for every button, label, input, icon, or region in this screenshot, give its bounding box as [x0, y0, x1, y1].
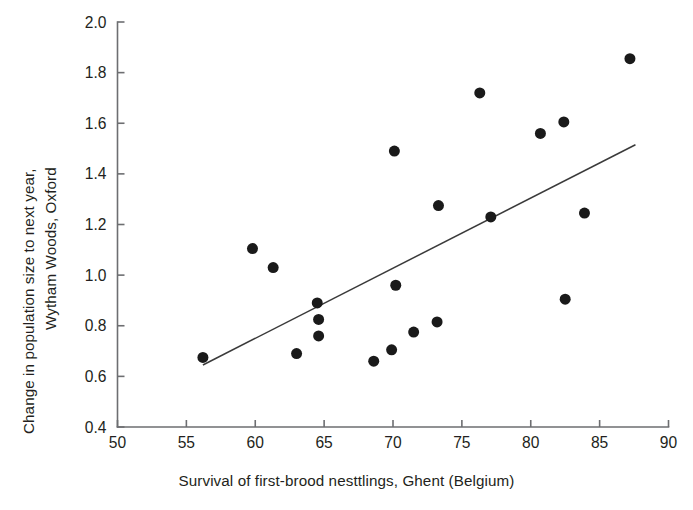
y-tick-label: 1.2: [85, 216, 107, 233]
x-tick-label: 50: [109, 434, 127, 451]
data-point: [432, 316, 443, 327]
data-point: [408, 327, 419, 338]
y-axis-ticks: [118, 22, 125, 427]
data-point: [368, 356, 379, 367]
y-tick-label: 1.0: [85, 267, 107, 284]
data-point: [558, 116, 569, 127]
x-tick-label: 60: [247, 434, 265, 451]
x-tick-label: 70: [384, 434, 402, 451]
y-tick-label: 0.4: [85, 419, 107, 436]
plot-area: 505560657075808590 0.40.60.81.01.21.41.6…: [0, 0, 693, 470]
data-point: [474, 87, 485, 98]
data-point: [313, 330, 324, 341]
y-tick-label: 2.0: [85, 14, 107, 31]
x-tick-label: 80: [522, 434, 540, 451]
plot-svg: 505560657075808590 0.40.60.81.01.21.41.6…: [0, 0, 693, 470]
y-tick-label: 1.4: [85, 165, 107, 182]
x-tick-label: 85: [591, 434, 609, 451]
scatter-plot-figure: Change in population size to next year, …: [0, 0, 693, 510]
x-axis-ticks: [118, 420, 669, 427]
data-point: [312, 297, 323, 308]
data-point: [624, 53, 635, 64]
x-tick-label: 65: [315, 434, 333, 451]
y-tick-label: 0.6: [85, 368, 107, 385]
data-point: [433, 200, 444, 211]
data-point: [535, 128, 546, 139]
data-point: [389, 146, 400, 157]
data-point: [390, 280, 401, 291]
data-point: [560, 294, 571, 305]
data-point: [197, 352, 208, 363]
x-tick-label: 90: [660, 434, 678, 451]
x-tick-labels: 505560657075808590: [109, 434, 678, 451]
data-point: [247, 243, 258, 254]
data-point: [291, 348, 302, 359]
data-point: [386, 344, 397, 355]
data-point: [313, 314, 324, 325]
y-tick-label: 1.6: [85, 115, 107, 132]
y-tick-label: 0.8: [85, 317, 107, 334]
x-tick-label: 75: [453, 434, 471, 451]
data-point: [579, 208, 590, 219]
data-point: [268, 262, 279, 273]
data-points: [197, 53, 635, 366]
axis-lines: [118, 22, 669, 427]
y-tick-label: 1.8: [85, 64, 107, 81]
regression-line: [203, 145, 636, 365]
x-axis-label: Survival of first-brood nesttlings, Ghen…: [0, 472, 693, 489]
data-point: [485, 211, 496, 222]
x-tick-label: 55: [178, 434, 196, 451]
trendline: [203, 145, 636, 365]
y-tick-labels: 0.40.60.81.01.21.41.61.82.0: [85, 14, 107, 436]
